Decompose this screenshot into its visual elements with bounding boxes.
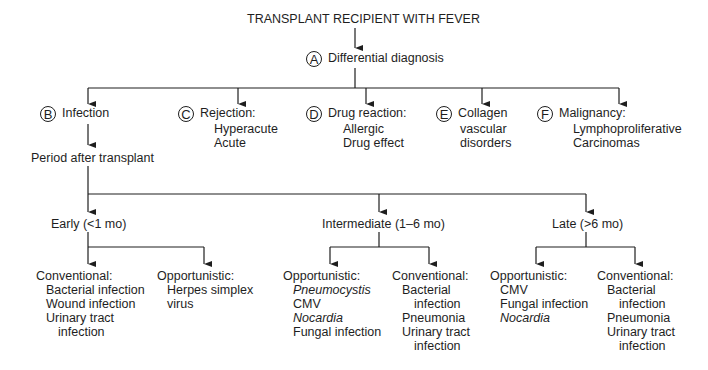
list-item: infection	[597, 339, 675, 353]
diagram-title: TRANSPLANT RECIPIENT WITH FEVER	[247, 12, 480, 26]
group-late-opportunistic: Opportunistic: CMV Fungal infection Noca…	[490, 269, 588, 325]
list-item: infection	[597, 297, 675, 311]
group-label: Conventional:	[392, 269, 470, 283]
list-item: Carcinomas	[537, 136, 682, 150]
group-early-conventional: Conventional: Bacterial infection Wound …	[36, 269, 145, 339]
list-item: Bacterial	[392, 283, 470, 297]
list-item: Drug effect	[306, 136, 407, 150]
list-item: Urinary tract	[597, 325, 675, 339]
marker-b: B	[40, 106, 56, 122]
list-item: Pneumocystis	[283, 283, 381, 297]
list-item: virus	[157, 297, 253, 311]
group-late-conventional: Conventional: Bacterial infection Pneumo…	[597, 269, 675, 353]
node-period-early: Early (<1 mo)	[51, 217, 126, 231]
list-item: Nocardia	[490, 311, 588, 325]
list-item: Fungal infection	[283, 325, 381, 339]
list-item: Herpes simplex	[157, 283, 253, 297]
marker-f: F	[537, 106, 553, 122]
node-rejection: CRejection: Hyperacute Acute	[178, 106, 278, 150]
list-item: Bacterial	[597, 283, 675, 297]
node-period-after-transplant: Period after transplant	[31, 151, 154, 165]
list-item: Lymphoproliferative	[537, 122, 682, 136]
node-differential-diagnosis: ADifferential diagnosis	[306, 51, 444, 67]
node-period-late: Late (>6 mo)	[552, 217, 623, 231]
group-label: Conventional:	[36, 269, 145, 283]
node-label: Rejection:	[200, 106, 256, 120]
node-drug-reaction: DDrug reaction: Allergic Drug effect	[306, 106, 407, 150]
node-label: Drug reaction:	[328, 106, 407, 120]
group-label: Conventional:	[597, 269, 675, 283]
node-collagen-vascular: ECollagen vascular disorders	[436, 106, 511, 150]
node-label: Collagen	[458, 106, 507, 120]
list-item: Pneumonia	[392, 311, 470, 325]
node-label: Infection	[62, 106, 109, 120]
group-label: Opportunistic:	[283, 269, 381, 283]
list-item: disorders	[436, 136, 511, 150]
marker-d: D	[306, 106, 322, 122]
node-period-intermediate: Intermediate (1–6 mo)	[322, 217, 445, 231]
group-label: Opportunistic:	[157, 269, 253, 283]
list-item: Bacterial infection	[36, 283, 145, 297]
list-item: vascular	[436, 122, 511, 136]
marker-c: C	[178, 106, 194, 122]
marker-a: A	[306, 51, 322, 67]
list-item: infection	[392, 339, 470, 353]
list-item: Allergic	[306, 122, 407, 136]
list-item: Wound infection	[36, 297, 145, 311]
list-item: infection	[36, 325, 145, 339]
node-label: Malignancy:	[559, 106, 626, 120]
list-item: Pneumonia	[597, 311, 675, 325]
node-infection: BInfection	[40, 106, 109, 122]
list-item: infection	[392, 297, 470, 311]
marker-e: E	[436, 106, 452, 122]
list-item: Nocardia	[283, 311, 381, 325]
list-item: Hyperacute	[178, 122, 278, 136]
group-intermediate-opportunistic: Opportunistic: Pneumocystis CMV Nocardia…	[283, 269, 381, 339]
list-item: Fungal infection	[490, 297, 588, 311]
list-item: CMV	[283, 297, 381, 311]
list-item: Urinary tract	[392, 325, 470, 339]
group-early-opportunistic: Opportunistic: Herpes simplex virus	[157, 269, 253, 311]
node-label: Differential diagnosis	[328, 51, 444, 65]
node-malignancy: FMalignancy: Lymphoproliferative Carcino…	[537, 106, 682, 150]
list-item: CMV	[490, 283, 588, 297]
list-item: Urinary tract	[36, 311, 145, 325]
group-label: Opportunistic:	[490, 269, 588, 283]
list-item: Acute	[178, 136, 278, 150]
group-intermediate-conventional: Conventional: Bacterial infection Pneumo…	[392, 269, 470, 353]
